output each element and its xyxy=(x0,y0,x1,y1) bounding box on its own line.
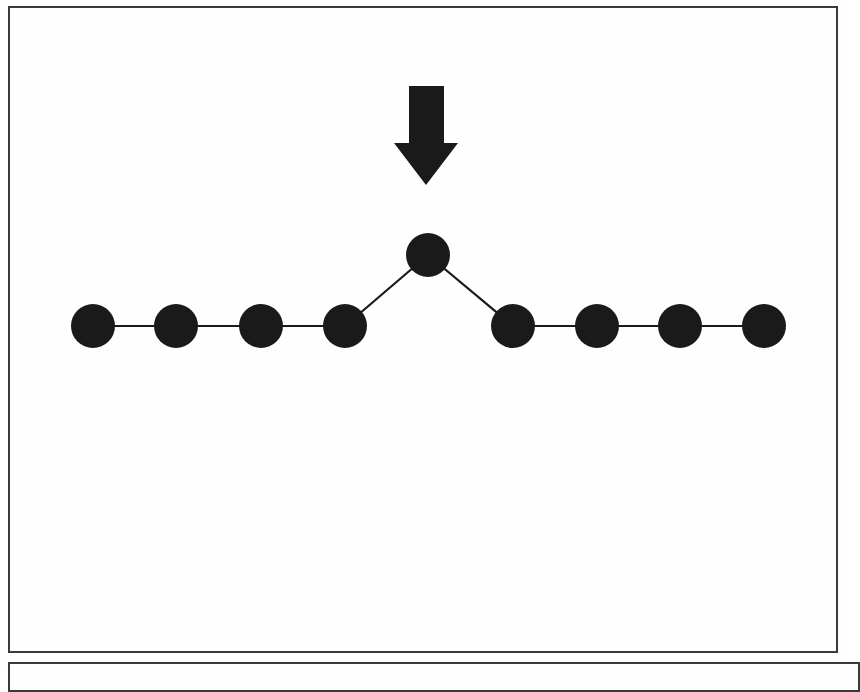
figure-frame xyxy=(8,6,838,653)
lower-frame xyxy=(8,662,860,692)
